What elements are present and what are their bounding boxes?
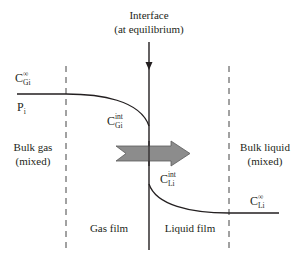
- mass-transfer-arrow-icon: [116, 141, 190, 166]
- interface-arrowhead-icon: [146, 62, 153, 70]
- bulk-gas-mixed-label: (mixed): [16, 155, 51, 168]
- liquid-film-label: Liquid film: [165, 222, 215, 235]
- c-li-int-base: C: [160, 172, 168, 186]
- gas-film-label: Gas film: [90, 222, 128, 235]
- p-i-symbol: Pi: [17, 101, 26, 115]
- interface-equilibrium-label: (at equilibrium): [114, 23, 183, 36]
- diagram-graphics: [0, 0, 301, 266]
- two-film-diagram: Interface (at equilibrium) C ∞ Gi Pi C i…: [0, 0, 301, 266]
- gas-concentration-curve: [17, 94, 149, 126]
- bulk-liquid-mixed-label: (mixed): [248, 155, 283, 168]
- c-gi-int-symbol: C int Gi: [107, 115, 115, 127]
- bulk-liquid-label: Bulk liquid: [240, 141, 290, 154]
- c-li-bulk-sub: Li: [258, 200, 265, 212]
- c-gi-bulk-symbol: C ∞ Gi: [15, 72, 23, 84]
- c-gi-bulk-base: C: [15, 71, 23, 85]
- interface-label: Interface: [129, 9, 168, 22]
- p-i-sub: i: [24, 107, 26, 116]
- c-li-bulk-base: C: [250, 194, 258, 208]
- c-gi-int-sub: Gi: [115, 120, 123, 132]
- c-li-bulk-symbol: C ∞ Li: [250, 195, 258, 207]
- c-li-int-symbol: C int Li: [160, 173, 168, 185]
- c-li-int-sub: Li: [168, 178, 175, 190]
- bulk-gas-label: Bulk gas: [14, 141, 53, 154]
- p-i-base: P: [17, 100, 24, 114]
- c-gi-bulk-sub: Gi: [23, 77, 31, 89]
- c-gi-int-base: C: [107, 114, 115, 128]
